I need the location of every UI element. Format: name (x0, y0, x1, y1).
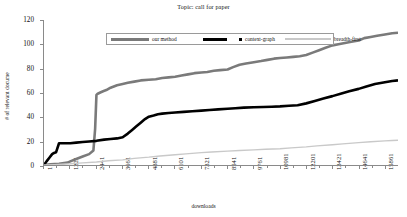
x-tick-label: 1 (46, 167, 53, 170)
x-minor-tick-mark (82, 166, 83, 168)
legend-label: breadth-first (334, 36, 361, 42)
series-line-breadth-first (44, 140, 398, 165)
x-minor-tick-mark (135, 166, 136, 168)
chart-container: Topic: call for paper 020406080100120 # … (0, 0, 407, 217)
x-minor-tick-mark (293, 166, 294, 168)
x-tick-mark (96, 166, 97, 169)
x-minor-tick-mark (56, 166, 57, 168)
legend-item-our-method[interactable]: our method (111, 34, 177, 44)
legend-swatch-icon (111, 38, 149, 41)
x-tick-mark (227, 166, 228, 169)
x-tick-mark (43, 166, 44, 169)
x-tick-mark (359, 166, 360, 169)
legend-swatch-icon (203, 38, 227, 41)
x-minor-tick-mark (267, 166, 268, 168)
x-tick-mark (69, 166, 70, 169)
x-tick-mark (201, 166, 202, 169)
x-tick-mark (174, 166, 175, 169)
x-tick-mark (306, 166, 307, 169)
x-minor-tick-mark (214, 166, 215, 168)
x-tick-mark (280, 166, 281, 169)
series-line-our-method (44, 33, 398, 165)
legend-swatch-icon (285, 38, 331, 40)
legend-label: our method (152, 36, 177, 42)
x-tick-mark (122, 166, 123, 169)
x-minor-tick-mark (372, 166, 373, 168)
x-minor-tick-mark (188, 166, 189, 168)
legend-item-context-graph[interactable]: context-graph (203, 34, 275, 44)
x-minor-tick-mark (109, 166, 110, 168)
x-minor-tick-mark (319, 166, 320, 168)
x-tick-mark (253, 166, 254, 169)
x-tick-mark (148, 166, 149, 169)
x-minor-tick-mark (345, 166, 346, 168)
legend-item-breadth-first[interactable]: breadth-first (285, 34, 361, 44)
legend-label: context-graph (245, 36, 275, 42)
x-minor-tick-mark (240, 166, 241, 168)
x-tick-mark (332, 166, 333, 169)
x-axis-title: downloads (0, 203, 407, 209)
legend-marker-icon (239, 38, 242, 41)
x-tick-mark (385, 166, 386, 169)
chart-legend: our methodcontext-graphbreadth-first (106, 33, 334, 45)
x-minor-tick-mark (161, 166, 162, 168)
